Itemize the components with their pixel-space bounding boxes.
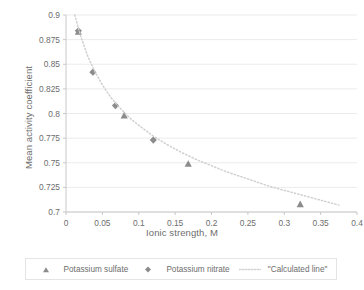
y-tick-label: 0.825 xyxy=(39,84,60,94)
chart-container: 0.70.7250.750.7750.80.8250.850.8750.900.… xyxy=(0,0,364,290)
legend-item-potassium-nitrate[interactable]: Potassium nitrate xyxy=(137,265,229,274)
y-tick-label: 0.8 xyxy=(48,109,60,119)
triangle-marker-icon xyxy=(35,265,57,274)
plot-area: 0.70.7250.750.7750.80.8250.850.8750.900.… xyxy=(0,0,364,250)
data-point-potassium-sulfate xyxy=(121,112,128,119)
y-tick-label: 0.75 xyxy=(44,158,61,168)
legend-item-calculated-line[interactable]: "Calculated line" xyxy=(239,265,328,274)
legend-label: Potassium sulfate xyxy=(64,265,129,274)
y-tick-label: 0.775 xyxy=(39,133,60,143)
x-axis-title: Ionic strength, M xyxy=(0,227,364,238)
scatter-plot-svg: 0.70.7250.750.7750.80.8250.850.8750.900.… xyxy=(0,0,364,250)
y-tick-label: 0.875 xyxy=(39,35,60,45)
legend-label: "Calculated line" xyxy=(268,265,328,274)
y-axis-title: Mean activity coefficient xyxy=(23,28,34,208)
y-tick-label: 0.9 xyxy=(48,10,60,20)
data-point-potassium-sulfate xyxy=(297,201,304,208)
chart-legend: Potassium sulfate Potassium nitrate "Cal… xyxy=(25,258,337,280)
y-tick-label: 0.725 xyxy=(39,182,60,192)
diamond-marker-icon xyxy=(137,265,159,274)
legend-label: Potassium nitrate xyxy=(166,265,229,274)
data-point-potassium-sulfate xyxy=(185,160,192,167)
y-tick-label: 0.7 xyxy=(48,207,60,217)
calculated-line-series xyxy=(75,15,339,205)
legend-item-potassium-sulfate[interactable]: Potassium sulfate xyxy=(35,265,129,274)
y-tick-label: 0.85 xyxy=(44,59,61,69)
dotted-line-icon xyxy=(239,265,261,274)
